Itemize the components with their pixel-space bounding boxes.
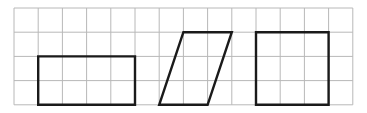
grid-diagram xyxy=(0,0,367,113)
square-shape xyxy=(256,32,329,105)
parallelogram-shape xyxy=(159,32,232,105)
